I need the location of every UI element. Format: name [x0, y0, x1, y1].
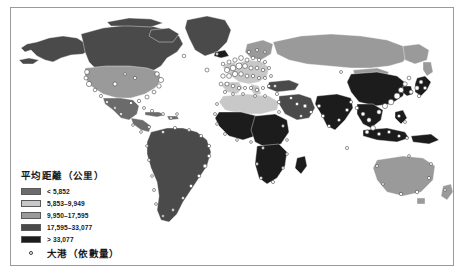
legend-label-2: 9,950–17,595 [47, 212, 89, 219]
figure-root: .c0{fill:#6b6b6b;} .c1{fill:#c8c8c8;} .c… [0, 0, 463, 278]
legend-row: 17,595–33,077 [19, 222, 169, 233]
figure-frame: .c0{fill:#6b6b6b;} .c1{fill:#c8c8c8;} .c… [10, 7, 454, 266]
map-legend: 平均距離（公里） < 5,852 5,853–9,949 9,950–17,59… [19, 168, 169, 260]
legend-swatch-4 [21, 236, 41, 244]
legend-row: 9,950–17,595 [19, 210, 169, 221]
legend-label-1: 5,853–9,949 [47, 200, 85, 207]
legend-row: < 5,852 [19, 186, 169, 197]
legend-swatch-1 [21, 200, 41, 208]
legend-label-3: 17,595–33,077 [47, 224, 92, 231]
legend-ports-label: 大港（依數量） [47, 246, 120, 260]
region-tasmania [417, 198, 425, 204]
legend-swatch-2 [21, 212, 41, 220]
legend-row: > 33,077 [19, 234, 169, 245]
legend-label-4: > 33,077 [47, 236, 74, 243]
legend-swatch-0 [21, 188, 41, 196]
legend-ports-row: 大港（依數量） [19, 247, 169, 260]
legend-row: 5,853–9,949 [19, 198, 169, 209]
legend-label-0: < 5,852 [47, 188, 70, 195]
port-circle-icon [21, 251, 41, 256]
legend-title: 平均距離（公里） [21, 168, 169, 182]
legend-swatch-3 [21, 224, 41, 232]
